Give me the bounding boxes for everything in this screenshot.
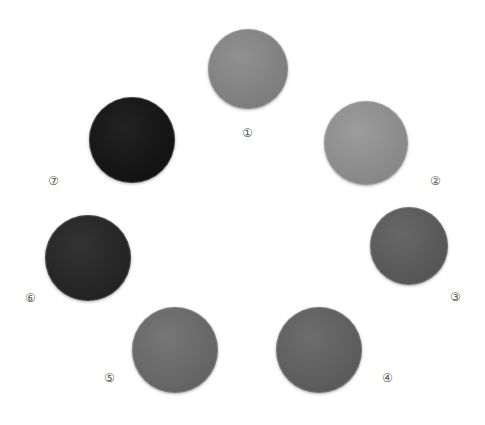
swatch-7 — [89, 97, 175, 183]
swatch-label-6: ⑥ — [25, 292, 36, 304]
swatch-label-1: ① — [242, 127, 253, 139]
swatch-4 — [276, 307, 362, 393]
swatch-label-3: ③ — [450, 291, 461, 303]
swatch-5 — [132, 307, 218, 393]
swatch-2 — [324, 101, 408, 185]
swatch-6 — [45, 215, 131, 301]
swatch-label-5: ⑤ — [104, 372, 115, 384]
swatch-label-2: ② — [430, 175, 441, 187]
swatch-3 — [370, 207, 448, 285]
swatch-label-7: ⑦ — [48, 175, 59, 187]
swatch-label-4: ④ — [382, 372, 393, 384]
swatch-1 — [208, 29, 288, 109]
